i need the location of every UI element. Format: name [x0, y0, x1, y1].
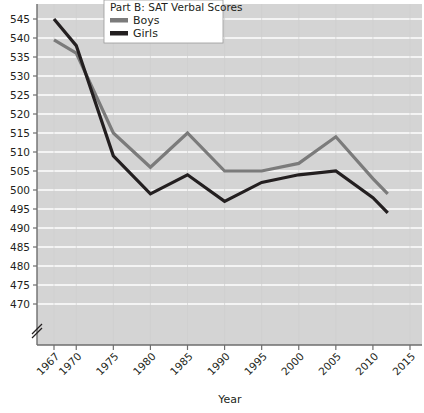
x-tick-label: 2015: [390, 350, 417, 377]
x-tick-label: 1985: [168, 350, 195, 377]
y-tick-label: 515: [10, 127, 30, 139]
y-tick-label: 500: [10, 184, 30, 196]
legend-swatch-boys: [110, 18, 128, 23]
y-tick-label: 510: [10, 146, 30, 158]
sat-verbal-scores-line-chart: 5455405355305255205155105055004954904854…: [0, 0, 424, 413]
x-tick-label: 2000: [279, 350, 306, 377]
x-tick-label: 2005: [316, 350, 343, 377]
x-tick-label: 1995: [242, 350, 269, 377]
x-tick-label: 1980: [130, 350, 157, 377]
legend-title: Part B: SAT Verbal Scores: [110, 1, 243, 13]
y-tick-label: 490: [10, 222, 30, 234]
y-tick-label: 545: [10, 13, 30, 25]
y-tick-label: 470: [10, 298, 30, 310]
x-tick-label: 2010: [353, 350, 380, 377]
y-tick-label: 475: [10, 279, 30, 291]
x-axis-title: Year: [217, 393, 242, 406]
y-tick-label: 520: [10, 108, 30, 120]
chart-legend: Part B: SAT Verbal Scores Boys Girls: [104, 0, 243, 43]
x-tick-label: 1970: [56, 350, 83, 377]
legend-label-girls: Girls: [133, 27, 158, 40]
y-axis-ticks: 5455405355305255205155105055004954904854…: [10, 13, 37, 310]
y-tick-label: 480: [10, 260, 30, 272]
x-tick-label: 1975: [93, 350, 120, 377]
y-tick-label: 505: [10, 165, 30, 177]
plot-area-background: [37, 4, 422, 345]
x-tick-label: 1990: [205, 350, 232, 377]
y-tick-label: 485: [10, 241, 30, 253]
y-tick-label: 540: [10, 32, 30, 44]
chart-container: 5455405355305255205155105055004954904854…: [0, 0, 424, 413]
x-axis-ticks: 1967197019751980198519901995200020052010…: [34, 345, 417, 377]
legend-swatch-girls: [110, 31, 128, 36]
y-tick-label: 525: [10, 89, 30, 101]
y-tick-label: 530: [10, 70, 30, 82]
x-tick-label: 1967: [34, 350, 61, 377]
y-tick-label: 495: [10, 203, 30, 215]
legend-label-boys: Boys: [133, 14, 160, 27]
y-tick-label: 535: [10, 51, 30, 63]
